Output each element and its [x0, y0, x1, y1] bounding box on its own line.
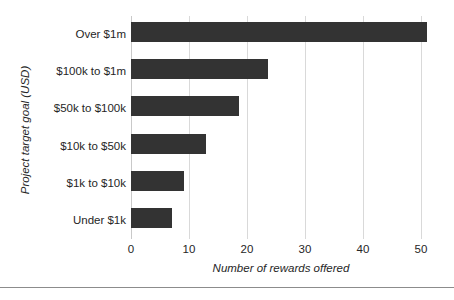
bar — [131, 22, 427, 42]
bar-row — [131, 165, 431, 202]
y-axis-tick-label: Over $1m — [26, 16, 126, 53]
x-axis-tick-label: 10 — [169, 243, 209, 255]
x-axis-tick-labels: 0 10 20 30 40 50 — [131, 243, 431, 259]
bar — [131, 208, 172, 228]
x-axis-tick-label: 50 — [401, 243, 441, 255]
x-axis-tick-label: 20 — [227, 243, 267, 255]
y-axis-tick-labels: Over $1m $100k to $1m $50k to $100k $10k… — [26, 16, 126, 239]
x-axis-tick-label: 40 — [343, 243, 383, 255]
bar — [131, 134, 206, 154]
bar-chart: Project target goal (USD) Over $1m $100k… — [0, 0, 454, 300]
y-axis-tick-label: $50k to $100k — [26, 90, 126, 127]
bar-row — [131, 53, 431, 90]
footer-divider — [0, 287, 454, 288]
y-axis-tick-label: $100k to $1m — [26, 53, 126, 90]
bar-row — [131, 16, 431, 53]
x-axis-tick-label: 0 — [111, 243, 151, 255]
y-axis-tick-label: $1k to $10k — [26, 165, 126, 202]
bar-row — [131, 202, 431, 239]
plot-area — [131, 16, 431, 239]
bar-series — [131, 16, 431, 239]
y-axis-tick-label: Under $1k — [26, 202, 126, 239]
y-axis-tick-label: $10k to $50k — [26, 128, 126, 165]
bar-row — [131, 90, 431, 127]
bar — [131, 59, 268, 79]
bar — [131, 171, 184, 191]
bar — [131, 96, 239, 116]
x-axis-tick-label: 30 — [285, 243, 325, 255]
bar-row — [131, 128, 431, 165]
x-axis-title: Number of rewards offered — [131, 262, 431, 274]
